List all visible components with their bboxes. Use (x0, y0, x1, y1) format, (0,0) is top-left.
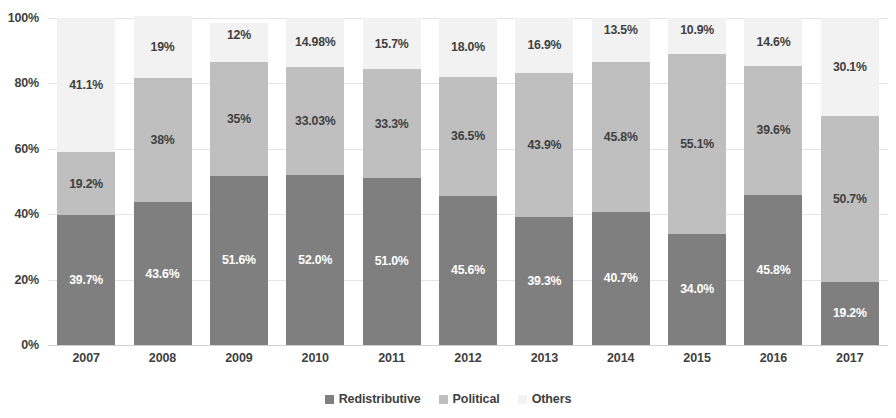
bar-segment-value-label: 14.6% (757, 36, 791, 48)
bar-segment-redistributive[interactable]: 43.6% (134, 202, 192, 345)
bar-group[interactable]: 43.6%38%19% (134, 18, 192, 345)
x-axis-tick-label-2015: 2015 (668, 351, 726, 365)
bar-segment-value-label: 30.1% (833, 61, 867, 73)
legend-label: Redistributive (339, 392, 421, 406)
bar-group[interactable]: 45.6%36.5%18.0% (439, 18, 497, 345)
bar-segment-political[interactable]: 36.5% (439, 77, 497, 196)
bar-segment-value-label: 52.0% (298, 254, 332, 266)
y-axis-tick-label: 100% (8, 11, 39, 25)
bar-group[interactable]: 39.3%43.9%16.9% (515, 18, 573, 345)
bar-segment-value-label: 19.2% (69, 178, 103, 190)
x-axis-tick-label-2012: 2012 (439, 351, 497, 365)
bar-segment-value-label: 35% (227, 113, 251, 125)
y-axis-tick-label: 20% (15, 273, 39, 287)
bar-segment-value-label: 45.8% (604, 131, 638, 143)
bar-segment-political[interactable]: 50.7% (821, 116, 879, 282)
bar-segment-others[interactable]: 18.0% (439, 18, 497, 77)
bar-segment-value-label: 39.7% (69, 274, 103, 286)
bar-segment-value-label: 51.0% (375, 255, 409, 267)
x-axis-tick-label-2013: 2013 (515, 351, 573, 365)
bar-segment-value-label: 13.5% (604, 24, 638, 36)
chart-legend: RedistributivePoliticalOthers (0, 392, 896, 406)
bar-segment-others[interactable]: 13.5% (592, 18, 650, 62)
bar-segment-political[interactable]: 35% (210, 62, 268, 176)
bar-segment-value-label: 33.03% (295, 115, 336, 127)
bar-group[interactable]: 39.7%19.2%41.1% (57, 18, 115, 345)
bar-series-container: 39.7%19.2%41.1%43.6%38%19%51.6%35%12%52.… (48, 18, 888, 345)
x-axis-tick-label-2017: 2017 (821, 351, 879, 365)
bar-segment-value-label: 33.3% (375, 118, 409, 130)
bar-segment-others[interactable]: 14.6% (744, 18, 802, 66)
y-axis-tick-label: 0% (21, 338, 39, 352)
bar-segment-value-label: 10.9% (680, 24, 714, 36)
bar-segment-value-label: 18.0% (451, 41, 485, 53)
bar-segment-value-label: 45.6% (451, 264, 485, 276)
bar-segment-political[interactable]: 55.1% (668, 54, 726, 234)
x-axis-tick-label-2010: 2010 (286, 351, 344, 365)
bar-group[interactable]: 19.2%50.7%30.1% (821, 18, 879, 345)
bar-segment-political[interactable]: 39.6% (744, 66, 802, 195)
bar-segment-political[interactable]: 45.8% (592, 62, 650, 212)
bar-segment-value-label: 50.7% (833, 193, 867, 205)
bar-segment-others[interactable]: 14.98% (286, 18, 344, 67)
legend-item-others[interactable]: Others (518, 392, 572, 406)
bar-segment-political[interactable]: 33.3% (363, 69, 421, 178)
x-axis-tick-label-2016: 2016 (744, 351, 802, 365)
bar-segment-redistributive[interactable]: 51.6% (210, 176, 268, 345)
bar-segment-others[interactable]: 10.9% (668, 18, 726, 54)
x-axis-tick-label-2007: 2007 (57, 351, 115, 365)
bar-segment-value-label: 43.9% (527, 139, 561, 151)
bar-segment-redistributive[interactable]: 52.0% (286, 175, 344, 345)
bar-segment-value-label: 38% (151, 134, 175, 146)
bar-segment-redistributive[interactable]: 45.6% (439, 196, 497, 345)
bar-segment-political[interactable]: 33.03% (286, 67, 344, 175)
bar-segment-value-label: 34.0% (680, 283, 714, 295)
plot-area: 39.7%19.2%41.1%43.6%38%19%51.6%35%12%52.… (48, 18, 888, 345)
bar-group[interactable]: 52.0%33.03%14.98% (286, 18, 344, 345)
bar-segment-redistributive[interactable]: 40.7% (592, 212, 650, 345)
bar-segment-redistributive[interactable]: 39.7% (57, 215, 115, 345)
legend-swatch-icon (325, 395, 334, 404)
bar-segment-others[interactable]: 12% (210, 23, 268, 62)
bar-segment-political[interactable]: 19.2% (57, 152, 115, 215)
bar-segment-value-label: 55.1% (680, 138, 714, 150)
bar-segment-value-label: 16.9% (527, 39, 561, 51)
gridline-0 (48, 345, 888, 346)
bar-segment-value-label: 43.6% (146, 268, 180, 280)
bar-segment-redistributive[interactable]: 45.8% (744, 195, 802, 345)
bar-segment-redistributive[interactable]: 19.2% (821, 282, 879, 345)
bar-segment-redistributive[interactable]: 39.3% (515, 217, 573, 346)
legend-item-redistributive[interactable]: Redistributive (325, 392, 421, 406)
x-axis-tick-label-2011: 2011 (363, 351, 421, 365)
bar-segment-others[interactable]: 41.1% (57, 18, 115, 152)
y-axis-tick-label: 80% (15, 76, 39, 90)
bar-segment-redistributive[interactable]: 34.0% (668, 234, 726, 345)
y-axis-tick-label: 60% (15, 142, 39, 156)
bar-segment-others[interactable]: 15.7% (363, 18, 421, 69)
bar-segment-value-label: 41.1% (69, 79, 103, 91)
legend-label: Others (532, 392, 572, 406)
legend-label: Political (453, 392, 500, 406)
bar-segment-value-label: 40.7% (604, 272, 638, 284)
x-axis: 2007200820092010201120122013201420152016… (48, 347, 888, 373)
y-axis: 0%20%40%60%80%100% (0, 18, 46, 345)
bar-segment-political[interactable]: 38% (134, 78, 192, 202)
bar-segment-others[interactable]: 30.1% (821, 18, 879, 116)
bar-group[interactable]: 45.8%39.6%14.6% (744, 18, 802, 345)
x-axis-tick-label-2014: 2014 (592, 351, 650, 365)
bar-group[interactable]: 34.0%55.1%10.9% (668, 18, 726, 345)
bar-segment-value-label: 45.8% (757, 264, 791, 276)
bar-segment-redistributive[interactable]: 51.0% (363, 178, 421, 345)
bar-segment-others[interactable]: 16.9% (515, 18, 573, 73)
bar-segment-political[interactable]: 43.9% (515, 73, 573, 217)
legend-item-political[interactable]: Political (439, 392, 500, 406)
bar-segment-value-label: 51.6% (222, 254, 256, 266)
bar-group[interactable]: 51.0%33.3%15.7% (363, 18, 421, 345)
stacked-bar-chart: 0%20%40%60%80%100% 39.7%19.2%41.1%43.6%3… (0, 0, 896, 418)
bar-group[interactable]: 40.7%45.8%13.5% (592, 18, 650, 345)
bar-segment-value-label: 39.3% (527, 275, 561, 287)
bar-segment-value-label: 15.7% (375, 38, 409, 50)
x-axis-tick-label-2008: 2008 (134, 351, 192, 365)
bar-segment-others[interactable]: 19% (134, 16, 192, 78)
bar-group[interactable]: 51.6%35%12% (210, 18, 268, 345)
